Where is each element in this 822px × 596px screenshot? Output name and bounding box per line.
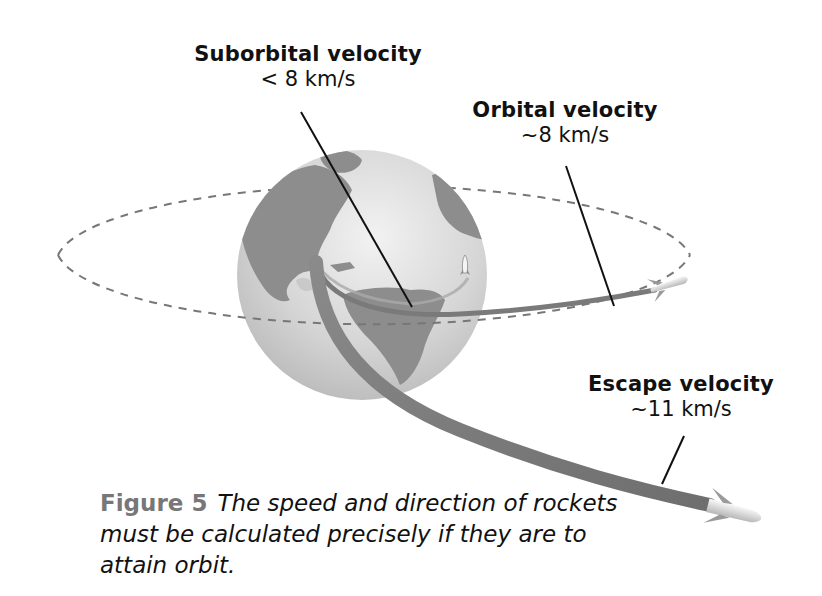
escape-leader-line (662, 436, 684, 484)
rocket-icon-escape (703, 488, 765, 536)
figure-number: Figure 5 (100, 490, 207, 516)
escape-value: ~11 km/s (576, 397, 786, 421)
figure-caption: Figure 5The speed and direction of rocke… (100, 488, 640, 581)
rocket-icon-orbital (647, 267, 691, 302)
suborbital-velocity-label: Suborbital velocity < 8 km/s (188, 42, 428, 91)
orbital-velocity-label: Orbital velocity ~8 km/s (455, 98, 675, 147)
orbital-value: ~8 km/s (455, 123, 675, 147)
suborbital-title: Suborbital velocity (188, 42, 428, 66)
escape-title: Escape velocity (576, 372, 786, 396)
suborbital-value: < 8 km/s (188, 67, 428, 91)
escape-velocity-label: Escape velocity ~11 km/s (576, 372, 786, 421)
orbital-title: Orbital velocity (455, 98, 675, 122)
orbital-leader-line (566, 166, 614, 306)
